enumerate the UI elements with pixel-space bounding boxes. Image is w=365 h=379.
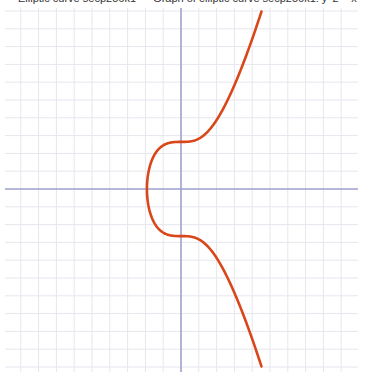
axes <box>5 8 358 372</box>
chart-canvas <box>0 0 365 379</box>
